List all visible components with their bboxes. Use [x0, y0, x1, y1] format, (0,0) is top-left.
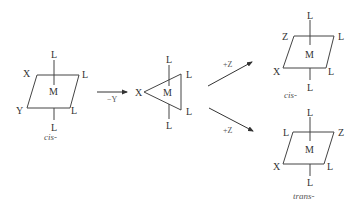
reactant-complex: M L L X L Y L cis- — [16, 49, 88, 142]
metal-label: M — [163, 87, 172, 98]
reactant-caption: cis- — [44, 132, 57, 142]
step1-arrow: −Y — [97, 92, 127, 104]
ligand-top: L — [51, 49, 57, 60]
ligand-top-right: L — [338, 31, 344, 42]
product-cis-caption: cis- — [284, 90, 297, 100]
step2-upper-arrow: +Z — [208, 60, 252, 86]
ligand-top-left: Z — [282, 31, 288, 42]
product-trans-complex: M L L L Z X L trans- — [273, 107, 344, 201]
ligand-upper-right: L — [186, 69, 192, 80]
step2-upper-label: +Z — [223, 60, 233, 69]
metal-label: M — [305, 49, 314, 60]
ligand-top-left: L — [283, 127, 289, 138]
ligand-top: L — [166, 54, 172, 65]
ligand-top-right: Z — [338, 127, 344, 138]
ligand-bottom-right: L — [328, 66, 334, 77]
ligand-bottom: L — [166, 120, 172, 131]
ligand-top-right: L — [82, 69, 88, 80]
ligand-top: L — [307, 10, 313, 21]
ligand-top: L — [307, 107, 313, 118]
step2-lower-arrow: +Z — [209, 108, 253, 135]
product-trans-caption: trans- — [293, 191, 315, 201]
ligand-bottom: L — [307, 177, 313, 188]
ligand-bottom-right: L — [327, 161, 333, 172]
ligand-left: X — [135, 87, 143, 98]
ligand-bottom-left: X — [273, 66, 281, 77]
step1-label: −Y — [107, 95, 118, 104]
metal-label: M — [49, 86, 58, 97]
product-cis-complex: M L L Z L X L cis- — [273, 10, 344, 100]
metal-label: M — [305, 144, 314, 155]
ligand-bottom-left: Y — [16, 105, 23, 116]
intermediate-complex: M L L X L L — [135, 54, 192, 131]
ligand-bottom: L — [307, 82, 313, 93]
ligand-bottom-left: X — [273, 161, 281, 172]
reaction-diagram: M L L X L Y L cis- −Y M L L X L L +Z +Z … — [0, 0, 363, 209]
step2-lower-label: +Z — [223, 126, 233, 135]
ligand-bottom-right: L — [71, 105, 77, 116]
ligand-lower-right: L — [186, 106, 192, 117]
ligand-top-left: X — [23, 68, 31, 79]
